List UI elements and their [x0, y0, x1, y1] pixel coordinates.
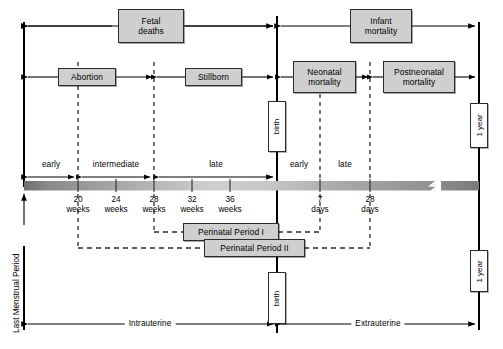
stage-label-late-neonatal: late	[338, 160, 352, 169]
axis-tick-label-36-weeks: 36 weeks	[218, 195, 241, 214]
diagram-vector-layer	[0, 0, 503, 349]
birth-marker-box-top[interactable]: birth	[268, 101, 286, 152]
stage-label-early-neonatal: early	[290, 160, 308, 169]
time-axis-bar	[24, 180, 479, 191]
fetal-deaths-box[interactable]: Fetal deaths	[118, 9, 184, 43]
neonatal-mortality-box[interactable]: Neonatal mortality	[293, 61, 356, 93]
birth-label-bottom: birth	[273, 290, 282, 306]
one-year-label-top: 1 year	[475, 114, 484, 136]
intrauterine-label: Intrauterine	[125, 319, 176, 328]
one-year-marker-box-bottom[interactable]: 1 year	[470, 250, 488, 292]
stage-label-intermediate: intermediate	[93, 160, 139, 169]
birth-marker-box-bottom[interactable]: birth	[268, 272, 286, 324]
abortion-box[interactable]: Abortion	[58, 68, 116, 86]
axis-tick-label-20-weeks: 20 weeks	[66, 195, 89, 214]
stillborn-box[interactable]: Stillborn	[185, 68, 242, 86]
birth-label-top: birth	[273, 119, 282, 135]
axis-tick-label-7-days: 7 days	[311, 195, 328, 214]
one-year-marker-box-top[interactable]: 1 year	[470, 103, 488, 148]
stage-label-late-intrauterine: late	[209, 160, 223, 169]
axis-tick-label-28-days: 28 days	[361, 195, 378, 214]
stage-label-early-intrauterine: early	[42, 160, 60, 169]
axis-tick-label-28-weeks: 28 weeks	[142, 195, 165, 214]
postneonatal-mortality-box[interactable]: Postneonatal mortality	[383, 61, 455, 93]
last-menstrual-period-label: Last Menstrual Period	[12, 253, 21, 333]
axis-tick-label-24-weeks: 24 weeks	[104, 195, 127, 214]
infant-mortality-box[interactable]: Infant mortality	[350, 9, 412, 43]
extrauterine-label: Extrauterine	[351, 319, 404, 328]
perinatal-period-two-box[interactable]: Perinatal Period II	[204, 239, 305, 257]
axis-tick-label-32-weeks: 32 weeks	[180, 195, 203, 214]
perinatal-mortality-diagram: Fetal deaths Infant mortality Abortion S…	[0, 0, 503, 349]
one-year-label-bottom: 1 year	[475, 260, 484, 282]
